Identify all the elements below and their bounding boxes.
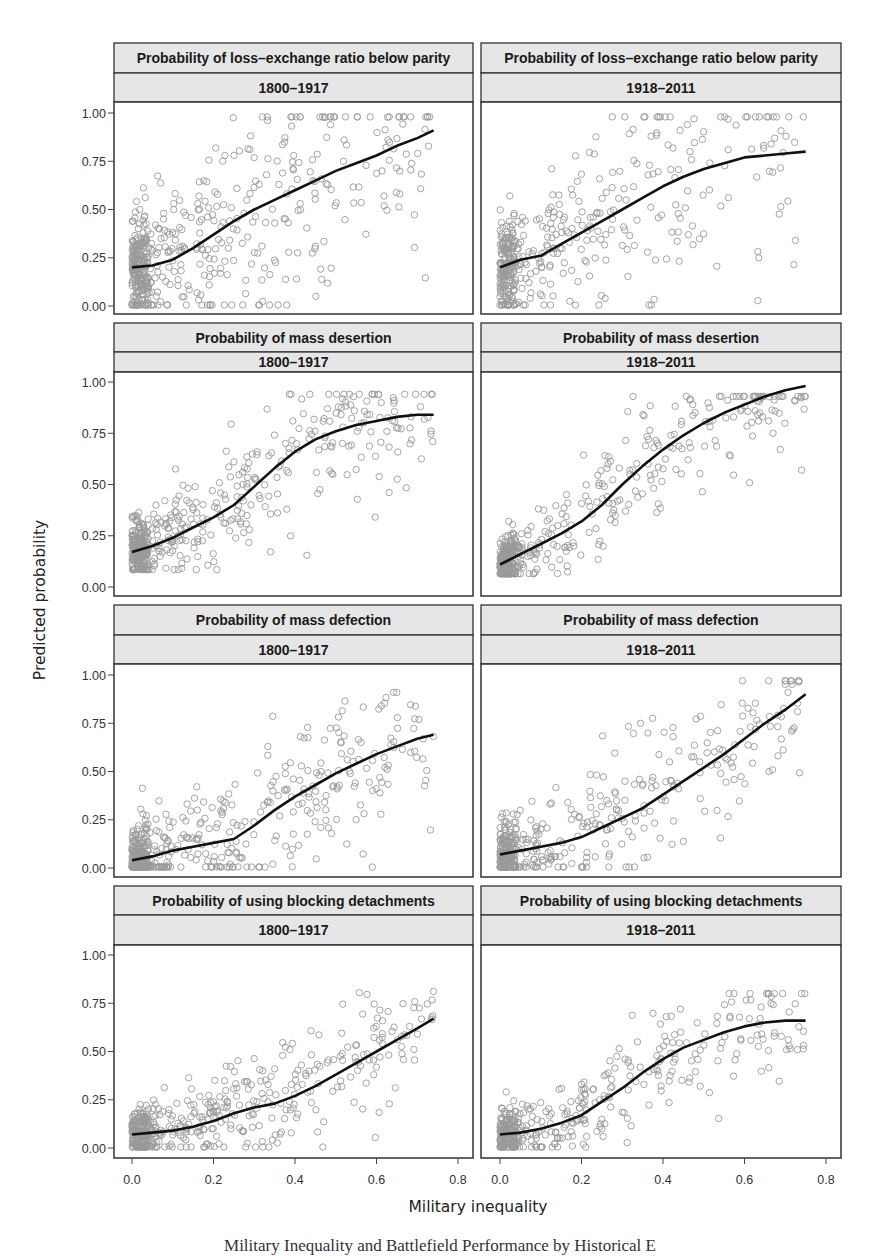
panel-title: Probability of mass desertion [195,330,391,346]
figure-caption: Military Inequality and Battlefield Perf… [0,1236,880,1256]
x-tick-label: 0.0 [491,1173,508,1187]
y-tick-label: 0.00 [82,300,106,314]
panel-title: Probability of mass desertion [563,330,759,346]
y-axis-title: Predicted probability [31,520,49,680]
panel-period: 1918–2011 [626,354,696,370]
x-tick-label: 0.4 [286,1173,303,1187]
facet-panel: Probability of mass desertion1918–2011 [481,323,841,596]
panel-period: 1800–1917 [258,922,328,938]
x-tick-label: 0.8 [449,1173,466,1187]
y-tick-label: 1.00 [82,669,106,683]
panel-title: Probability of loss–exchange ratio below… [137,50,451,66]
y-tick-label: 0.75 [82,997,106,1011]
y-tick-label: 0.00 [82,581,106,595]
y-tick-label: 0.25 [82,1093,106,1107]
panel-period: 1918–2011 [626,80,696,96]
y-tick-label: 0.25 [82,529,106,543]
plot-area [114,372,473,596]
plot-area [114,945,473,1158]
y-tick-label: 0.00 [82,862,106,876]
y-tick-label: 0.50 [82,1045,106,1059]
panel-title: Probability of mass defection [563,612,758,628]
y-tick-label: 0.75 [82,717,106,731]
y-tick-label: 0.00 [82,1142,106,1156]
facet-panel: Probability of loss–exchange ratio below… [481,43,841,314]
y-tick-label: 0.25 [82,813,106,827]
panel-title: Probability of using blocking detachment… [520,893,803,909]
panel-period: 1800–1917 [258,642,328,658]
x-axis-title: Military inequality [408,1198,547,1216]
y-tick-label: 0.50 [82,203,106,217]
y-tick-label: 0.75 [82,155,106,169]
panel-period: 1918–2011 [626,642,696,658]
y-tick-label: 0.50 [82,478,106,492]
panel-title: Probability of loss–exchange ratio below… [504,50,818,66]
plot-area [481,102,841,314]
y-tick-label: 0.50 [82,765,106,779]
panel-period: 1918–2011 [626,922,696,938]
panel-period: 1800–1917 [258,80,328,96]
y-tick-label: 1.00 [82,107,106,121]
faceted-scatter-figure: Probability of loss–exchange ratio below… [0,0,880,1256]
facet-panel: Probability of using blocking detachment… [481,886,841,1187]
facet-panel: Probability of mass defection1918–2011 [481,605,841,877]
y-tick-label: 1.00 [82,376,106,390]
x-tick-label: 0.2 [573,1173,590,1187]
y-tick-label: 0.25 [82,251,106,265]
x-tick-label: 0.0 [123,1173,140,1187]
y-tick-label: 1.00 [82,949,106,963]
x-tick-label: 0.8 [817,1173,834,1187]
facet-panel: Probability of using blocking detachment… [82,886,473,1187]
panel-period: 1800–1917 [258,354,328,370]
x-tick-label: 0.6 [736,1173,753,1187]
x-tick-label: 0.6 [368,1173,385,1187]
panel-title: Probability of mass defection [196,612,391,628]
x-tick-label: 0.4 [654,1173,671,1187]
panel-title: Probability of using blocking detachment… [152,893,435,909]
y-tick-label: 0.75 [82,427,106,441]
x-tick-label: 0.2 [205,1173,222,1187]
facet-panel: Probability of loss–exchange ratio below… [82,43,473,314]
facet-panel: Probability of mass desertion1800–19170.… [82,323,473,596]
facet-panel: Probability of mass defection1800–19170.… [82,605,473,877]
